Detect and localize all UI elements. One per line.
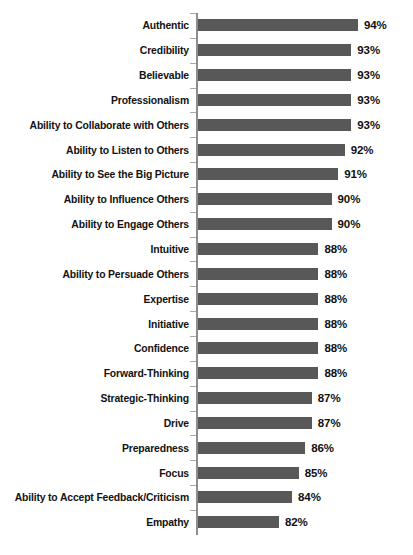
bar <box>198 94 351 106</box>
bar-value-label: 88% <box>324 293 347 305</box>
bar-row: Ability to Collaborate with Others93% <box>0 112 413 137</box>
bar <box>198 69 351 81</box>
bar-row: Ability to Influence Others90% <box>0 187 413 212</box>
bar-value-label: 85% <box>305 467 328 479</box>
bar-value-label: 94% <box>364 19 387 31</box>
bar-row: Ability to Accept Feedback/Criticism84% <box>0 485 413 510</box>
category-label: Strategic-Thinking <box>100 393 189 404</box>
bar-value-label: 93% <box>357 119 380 131</box>
bar <box>198 367 318 379</box>
category-label: Ability to Listen to Others <box>66 144 189 155</box>
axis-tick <box>190 286 196 287</box>
category-label: Ability to Persuade Others <box>62 268 189 279</box>
category-label: Expertise <box>144 293 189 304</box>
bar-row: Professionalism93% <box>0 88 413 113</box>
axis-tick <box>190 311 196 312</box>
bar <box>198 218 332 230</box>
axis-tick <box>190 187 196 188</box>
bar-with-value: 87% <box>198 417 341 429</box>
bar <box>198 516 279 528</box>
category-label: Ability to Influence Others <box>64 194 189 205</box>
category-label: Forward-Thinking <box>104 368 189 379</box>
bar-with-value: 87% <box>198 392 341 404</box>
bar-value-label: 82% <box>285 516 308 528</box>
bar-row: Authentic94% <box>0 13 413 38</box>
bar <box>198 293 318 305</box>
bar-row: Credibility93% <box>0 38 413 63</box>
bar <box>198 193 332 205</box>
bar <box>198 268 318 280</box>
bar-with-value: 88% <box>198 318 347 330</box>
bar-row: Confidence88% <box>0 336 413 361</box>
bar-with-value: 88% <box>198 268 347 280</box>
bar-with-value: 85% <box>198 467 327 479</box>
bar-value-label: 93% <box>357 44 380 56</box>
bar <box>198 491 292 503</box>
bar-value-label: 88% <box>324 342 347 354</box>
category-label: Ability to Collaborate with Others <box>30 119 189 130</box>
bar-with-value: 90% <box>198 218 360 230</box>
axis-tick <box>190 386 196 387</box>
category-label: Ability to See the Big Picture <box>51 169 189 180</box>
category-label: Confidence <box>134 343 189 354</box>
bar <box>198 19 358 31</box>
axis-tick <box>190 261 196 262</box>
category-label: Preparedness <box>122 442 189 453</box>
bar-with-value: 93% <box>198 44 380 56</box>
bar <box>198 392 312 404</box>
bar-row: Intuitive88% <box>0 237 413 262</box>
bar-row: Preparedness86% <box>0 435 413 460</box>
axis-tick <box>190 38 196 39</box>
bar-row: Ability to Persuade Others88% <box>0 261 413 286</box>
bar-row: Empathy82% <box>0 510 413 535</box>
category-label: Authentic <box>142 20 189 31</box>
bar-with-value: 88% <box>198 342 347 354</box>
category-label: Professionalism <box>111 94 189 105</box>
bar <box>198 417 312 429</box>
bar-value-label: 92% <box>351 144 374 156</box>
axis-tick <box>190 411 196 412</box>
bar-value-label: 87% <box>318 417 341 429</box>
axis-tick <box>190 112 196 113</box>
horizontal-bar-chart: Authentic94%Credibility93%Believable93%P… <box>0 0 413 555</box>
bar-with-value: 84% <box>198 491 321 503</box>
bar-with-value: 91% <box>198 168 367 180</box>
bar-row: Ability to Engage Others90% <box>0 212 413 237</box>
bar-value-label: 84% <box>298 491 321 503</box>
bar <box>198 243 318 255</box>
category-label: Focus <box>159 467 189 478</box>
bar-with-value: 88% <box>198 367 347 379</box>
category-label: Initiative <box>148 318 189 329</box>
bar-row: Focus85% <box>0 460 413 485</box>
bar-with-value: 93% <box>198 94 380 106</box>
bar <box>198 318 318 330</box>
category-label: Ability to Accept Feedback/Criticism <box>15 492 189 503</box>
bar-row: Ability to See the Big Picture91% <box>0 162 413 187</box>
bar-row: Ability to Listen to Others92% <box>0 137 413 162</box>
bar-row: Believable93% <box>0 63 413 88</box>
bar-with-value: 86% <box>198 442 334 454</box>
axis-tick <box>190 485 196 486</box>
axis-tick <box>190 510 196 511</box>
bar-row: Initiative88% <box>0 311 413 336</box>
axis-tick <box>190 336 196 337</box>
category-label: Credibility <box>140 45 189 56</box>
category-label: Believable <box>139 70 189 81</box>
bar <box>198 44 351 56</box>
category-label: Intuitive <box>151 244 189 255</box>
bar <box>198 467 299 479</box>
bar-with-value: 90% <box>198 193 360 205</box>
plot-area: Authentic94%Credibility93%Believable93%P… <box>0 13 413 535</box>
bar-with-value: 92% <box>198 144 373 156</box>
bar-value-label: 93% <box>357 69 380 81</box>
bar-value-label: 88% <box>324 367 347 379</box>
axis-tick <box>190 162 196 163</box>
bar <box>198 342 318 354</box>
bar-with-value: 82% <box>198 516 308 528</box>
bar <box>198 144 345 156</box>
axis-tick <box>190 137 196 138</box>
bar-value-label: 90% <box>338 193 361 205</box>
bar-value-label: 87% <box>318 392 341 404</box>
axis-tick <box>190 237 196 238</box>
bar-with-value: 93% <box>198 69 380 81</box>
